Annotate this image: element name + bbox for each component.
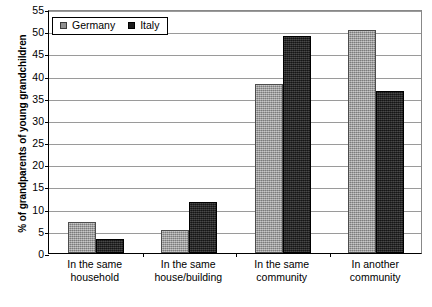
y-axis-tick-label: 45	[32, 49, 44, 59]
bar-chart: % of grandparents of young grandchildren…	[0, 0, 432, 307]
bar-germany-1	[161, 230, 189, 253]
x-axis-tick-mark	[143, 253, 144, 257]
legend-entry-germany: Germany	[60, 20, 115, 31]
bar-germany-2	[255, 84, 283, 253]
x-axis-label-line: house/building	[142, 271, 236, 284]
x-axis-label-line: community	[235, 271, 329, 284]
x-axis-tick-mark	[330, 253, 331, 257]
x-axis-label-3: In anothercommunity	[329, 258, 423, 284]
chart-legend: Germany Italy	[52, 17, 168, 35]
bars-layer	[49, 11, 421, 253]
legend-swatch-icon-italy	[128, 22, 135, 29]
x-axis-label-line: In the same	[235, 258, 329, 271]
bar-italy-3	[376, 91, 404, 253]
y-axis-tick-label: 25	[32, 138, 44, 148]
y-axis-tick-label: 20	[32, 160, 44, 170]
y-axis-tick-label: 40	[32, 72, 44, 82]
y-axis-tick-label: 55	[32, 5, 44, 15]
y-axis-tick-label: 35	[32, 94, 44, 104]
y-axis-tick-label: 30	[32, 116, 44, 126]
x-axis-label-line: household	[48, 271, 142, 284]
x-axis-label-1: In the samehouse/building	[142, 258, 236, 284]
x-axis-label-line: In the same	[142, 258, 236, 271]
x-axis-label-2: In the samecommunity	[235, 258, 329, 284]
x-axis-label-0: In the samehousehold	[48, 258, 142, 284]
legend-label-germany: Germany	[72, 20, 115, 31]
bar-germany-3	[348, 30, 376, 253]
bar-germany-0	[68, 222, 96, 253]
bar-italy-1	[189, 202, 217, 253]
legend-swatch-icon-germany	[60, 22, 67, 29]
y-axis-tick-label: 50	[32, 27, 44, 37]
legend-label-italy: Italy	[140, 20, 159, 31]
bar-italy-2	[283, 36, 311, 253]
plot-area	[48, 10, 422, 254]
x-axis-tick-mark	[236, 253, 237, 257]
bar-italy-0	[96, 239, 124, 253]
x-axis-label-line: community	[329, 271, 423, 284]
y-axis-tick-label: 10	[32, 205, 44, 215]
x-axis-label-line: In the same	[48, 258, 142, 271]
y-axis-tick-label: 5	[38, 227, 44, 237]
legend-entry-italy: Italy	[128, 20, 159, 31]
y-axis-tick-label: 15	[32, 182, 44, 192]
y-axis-tick-labels: 0510152025303540455055	[14, 10, 44, 254]
x-axis-category-labels: In the samehouseholdIn the samehouse/bui…	[48, 258, 422, 300]
y-axis-tick-label: 0	[38, 249, 44, 259]
y-axis-tick-mark	[45, 255, 49, 256]
x-axis-label-line: In another	[329, 258, 423, 271]
